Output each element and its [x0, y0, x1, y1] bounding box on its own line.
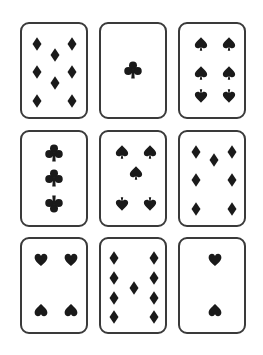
diamond-icon	[225, 145, 240, 160]
diamond-icon	[48, 48, 63, 63]
spade-icon	[194, 37, 209, 52]
diamond-icon	[189, 202, 204, 217]
club-icon	[45, 144, 64, 163]
heart-icon	[64, 253, 79, 268]
diamond-icon	[107, 271, 122, 286]
diamond-icon	[65, 65, 80, 80]
heart-icon	[34, 253, 49, 268]
spade-icon	[143, 197, 158, 212]
diamond-icon	[65, 94, 80, 109]
card-nine-of-diamonds[interactable]	[99, 237, 167, 334]
club-icon	[45, 169, 64, 188]
spade-icon	[194, 66, 209, 81]
card-six-of-spades[interactable]	[178, 22, 246, 119]
card-two-of-hearts[interactable]	[178, 237, 246, 334]
diamond-icon	[147, 291, 162, 306]
spade-icon	[222, 66, 237, 81]
spade-icon	[115, 197, 130, 212]
card-four-of-hearts[interactable]	[20, 237, 88, 334]
club-icon	[45, 195, 64, 214]
diamond-icon	[30, 37, 45, 52]
diamond-icon	[48, 76, 63, 91]
diamond-icon	[30, 94, 45, 109]
spade-icon	[129, 166, 144, 181]
club-icon	[124, 61, 143, 80]
spade-icon	[222, 89, 237, 104]
diamond-icon	[189, 173, 204, 188]
card-eight-of-diamonds[interactable]	[20, 22, 88, 119]
diamond-icon	[65, 37, 80, 52]
spade-icon	[194, 89, 209, 104]
diamond-icon	[147, 310, 162, 325]
spade-icon	[143, 145, 158, 160]
diamond-icon	[225, 173, 240, 188]
heart-icon	[34, 303, 49, 318]
card-seven-of-diamonds[interactable]	[178, 130, 246, 227]
diamond-icon	[225, 202, 240, 217]
diamond-icon	[207, 153, 222, 168]
heart-icon	[208, 253, 223, 268]
spade-icon	[222, 37, 237, 52]
card-ace-of-clubs[interactable]	[99, 22, 167, 119]
spade-icon	[115, 145, 130, 160]
diamond-icon	[147, 251, 162, 266]
heart-icon	[64, 303, 79, 318]
diamond-icon	[30, 65, 45, 80]
diamond-icon	[107, 310, 122, 325]
card-five-of-spades[interactable]	[99, 130, 167, 227]
card-three-of-clubs[interactable]	[20, 130, 88, 227]
diamond-icon	[107, 251, 122, 266]
diamond-icon	[127, 281, 142, 296]
diamond-icon	[189, 145, 204, 160]
heart-icon	[208, 303, 223, 318]
diamond-icon	[107, 291, 122, 306]
diamond-icon	[147, 271, 162, 286]
